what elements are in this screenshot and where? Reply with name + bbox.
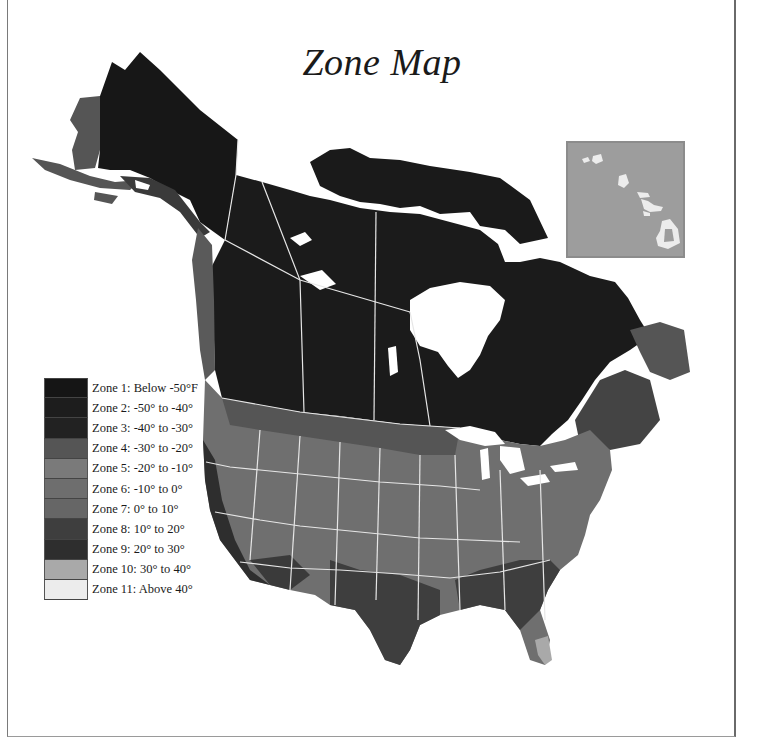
legend-item-zone-7: Zone 7: 0° to 10° (44, 499, 198, 519)
hawaii-islands (568, 143, 683, 256)
legend-swatch (44, 418, 88, 438)
legend-label: Zone 3: -40° to -30° (92, 421, 193, 436)
legend-swatch (44, 580, 88, 600)
legend-label: Zone 2: -50° to -40° (92, 401, 193, 416)
legend-label: Zone 5: -20° to -10° (92, 461, 193, 476)
legend-item-zone-2: Zone 2: -50° to -40° (44, 398, 198, 418)
legend-item-zone-9: Zone 9: 20° to 30° (44, 540, 198, 560)
legend-item-zone-6: Zone 6: -10° to 0° (44, 479, 198, 499)
legend-swatch (44, 560, 88, 580)
hawaii-inset-map (566, 141, 685, 258)
legend-swatch (44, 519, 88, 539)
legend-swatch (44, 398, 88, 418)
legend-swatch (44, 479, 88, 499)
legend-swatch (44, 378, 88, 398)
legend-item-zone-5: Zone 5: -20° to -10° (44, 459, 198, 479)
legend-label: Zone 9: 20° to 30° (92, 542, 185, 557)
legend-label: Zone 7: 0° to 10° (92, 502, 178, 517)
legend-item-zone-3: Zone 3: -40° to -30° (44, 418, 198, 438)
legend-swatch (44, 499, 88, 519)
legend-label: Zone 6: -10° to 0° (92, 482, 183, 497)
legend-item-zone-11: Zone 11: Above 40° (44, 580, 198, 600)
legend-label: Zone 1: Below -50°F (92, 381, 198, 396)
legend-item-zone-4: Zone 4: -30° to -20° (44, 439, 198, 459)
legend-swatch (44, 540, 88, 560)
legend-swatch (44, 459, 88, 479)
north-america-zone-map (0, 0, 764, 740)
legend-label: Zone 11: Above 40° (92, 582, 193, 597)
legend-label: Zone 4: -30° to -20° (92, 441, 193, 456)
legend-item-zone-8: Zone 8: 10° to 20° (44, 519, 198, 539)
zone-legend: Zone 1: Below -50°F Zone 2: -50° to -40°… (44, 378, 198, 600)
legend-item-zone-1: Zone 1: Below -50°F (44, 378, 198, 398)
legend-item-zone-10: Zone 10: 30° to 40° (44, 560, 198, 580)
legend-label: Zone 10: 30° to 40° (92, 562, 191, 577)
legend-label: Zone 8: 10° to 20° (92, 522, 185, 537)
legend-swatch (44, 439, 88, 459)
